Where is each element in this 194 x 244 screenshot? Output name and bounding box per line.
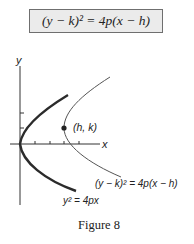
standard-parabola-curve: [20, 95, 76, 191]
standard-parabola-label: y² = 4px: [62, 195, 100, 206]
parabola-diagram: y x (h, k) (y − k)² = 4p(x − h) y² = 4px: [0, 0, 194, 244]
vertex-label: (h, k): [73, 121, 97, 133]
shifted-parabola-label: (y − k)² = 4p(x − h): [95, 178, 178, 189]
vertex-point: [61, 125, 66, 130]
x-axis-label: x: [101, 138, 108, 150]
figure-caption: Figure 8: [0, 218, 194, 233]
y-axis-label: y: [15, 54, 23, 66]
y-axis-ticks: [20, 113, 24, 128]
